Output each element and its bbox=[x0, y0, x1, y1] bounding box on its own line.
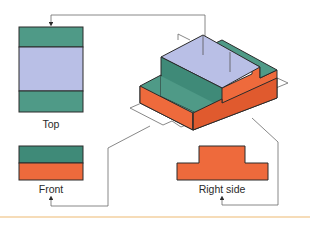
top-view bbox=[19, 27, 83, 112]
front-view bbox=[19, 146, 83, 180]
top-view-band-upper bbox=[19, 27, 83, 47]
front-view-upper bbox=[19, 146, 83, 163]
front-view-label: Front bbox=[39, 183, 64, 195]
isometric-block bbox=[140, 35, 277, 130]
top-bracket bbox=[178, 34, 190, 40]
front-view-lower bbox=[19, 163, 83, 180]
top-view-band-lower bbox=[19, 91, 83, 112]
page-divider bbox=[0, 216, 310, 218]
top-view-label: Top bbox=[43, 118, 60, 130]
top-view-band-middle bbox=[19, 47, 83, 91]
right-side-view-label: Right side bbox=[199, 183, 246, 195]
right-side-view bbox=[177, 146, 268, 180]
projection-diagram: Top Front Right side bbox=[0, 0, 310, 229]
